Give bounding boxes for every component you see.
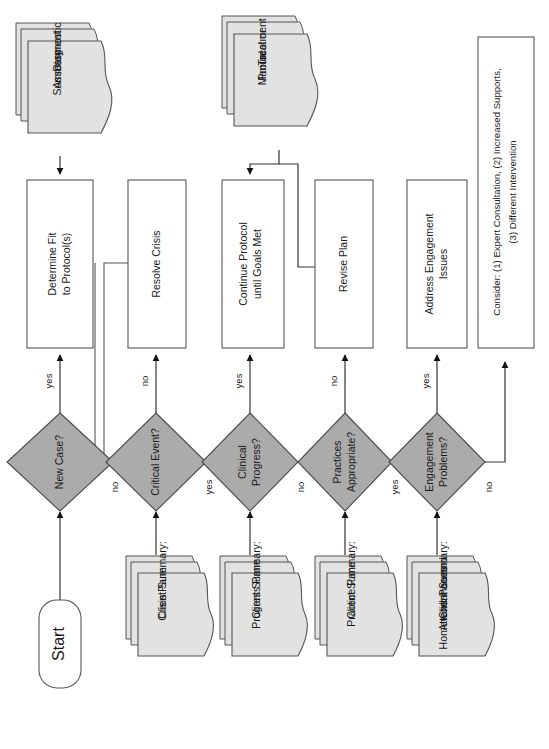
decision-new-case: New Case?	[7, 413, 113, 511]
process-consider-line2: (3) Different Intervention	[507, 140, 518, 243]
flowchart-svg: Diagnostic Assessment Summary Treatment …	[0, 0, 549, 749]
decision-clinical-progress: Clinical Progress?	[202, 413, 298, 511]
start-label: Start	[50, 627, 67, 661]
connector-engagement-no	[485, 362, 505, 462]
process-continue-protocol: Continue Protocol until Goals Met	[222, 180, 284, 348]
process-determine-fit-line2: to Protocol(s)	[60, 233, 72, 295]
decision-practices-line2: Appropriate?	[345, 432, 357, 492]
flowchart-canvas: Diagnostic Assessment Summary Treatment …	[0, 0, 549, 749]
decision-engagement-line1: Engagement	[423, 432, 435, 492]
edge-label-engagement-no: no	[483, 482, 494, 493]
edge-label-critical-event-yes: yes	[203, 479, 214, 494]
doc-progress-pane-line2: Progress Pane	[250, 559, 262, 629]
process-continue-protocol-line1: Continue Protocol	[237, 222, 249, 305]
decision-critical-event-label: Critical Event?	[149, 428, 161, 496]
edge-label-clinical-progress-no: no	[295, 482, 306, 493]
edge-label-critical-event-no: no	[139, 376, 150, 387]
document-diagnostic-assessment-summary: Diagnostic Assessment Summary	[16, 22, 112, 133]
edge-label-practices-yes: yes	[389, 479, 400, 494]
doc-treatment-line3: Manual	[256, 51, 268, 85]
document-client-summary-practice-pane: Client Summary: Practice Pane	[315, 541, 402, 656]
decision-engagement-problems: Engagement Problems?	[389, 413, 485, 511]
process-continue-protocol-line2: until Goals Met	[251, 229, 263, 299]
connector-treatment-to-continue-protocol	[250, 150, 279, 174]
connector-no-branch-to-resolve-crisis	[95, 263, 128, 470]
document-client-summary-progress-pane: Client Summary: Progress Pane	[220, 541, 307, 656]
process-consider-options: Consider: (1) Expert Consultation, (2) I…	[478, 37, 534, 348]
edge-label-new-case-yes: yes	[43, 373, 54, 388]
doc-attendance-pane-line3: Homework Panes	[437, 567, 449, 650]
edge-label-clinical-progress-yes: yes	[233, 373, 244, 388]
process-resolve-crisis-label: Resolve Crisis	[150, 230, 162, 297]
document-client-summary-crisis-pane: Client Summary: Crisis Pane	[126, 541, 213, 656]
decision-clinical-progress-line2: Progress?	[250, 438, 262, 486]
process-address-engagement-line1: Address Engagement	[423, 213, 435, 314]
decision-engagement-line2: Problems?	[437, 437, 449, 487]
edge-label-new-case-no: no	[109, 482, 120, 493]
process-address-engagement-issues: Address Engagement Issues	[407, 180, 467, 348]
decision-clinical-progress-line1: Clinical	[236, 445, 248, 479]
start-terminator: Start	[39, 600, 81, 688]
process-address-engagement-line2: Issues	[437, 249, 449, 279]
decision-practices-appropriate: Practices Appropriate?	[298, 413, 392, 511]
doc-diagnostic-line3: Summary	[51, 50, 63, 96]
edge-label-practices-no: no	[328, 376, 339, 387]
process-consider-line1: Consider: (1) Expert Consultation, (2) I…	[491, 68, 502, 315]
process-resolve-crisis: Resolve Crisis	[128, 180, 186, 348]
process-revise-plan-label: Revise Plan	[337, 236, 349, 292]
doc-practice-pane-line2: Practice Pane	[345, 561, 357, 627]
decision-critical-event: Critical Event?	[106, 413, 206, 511]
process-determine-fit-to-protocols: Determine Fit to Protocol(s)	[27, 180, 93, 348]
document-treatment-protocol-manual: Treatment Protocol or Manual	[222, 16, 318, 126]
decision-new-case-label: New Case?	[53, 435, 65, 489]
decision-practices-line1: Practices	[331, 440, 343, 483]
doc-crisis-pane-line2: Crisis Pane	[156, 567, 168, 621]
edge-label-engagement-yes: yes	[420, 373, 431, 388]
process-determine-fit-line1: Determine Fit	[46, 232, 58, 295]
process-revise-plan: Revise Plan	[315, 180, 373, 348]
document-client-summary-attendance-homework-panes: Client Summary: Attendance and Homework …	[407, 541, 494, 656]
